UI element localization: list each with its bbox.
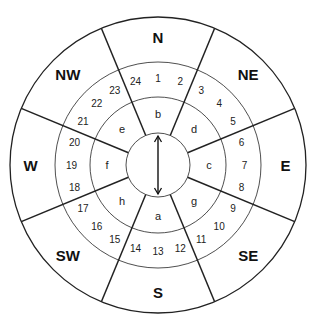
position-10: 10 [214,221,226,232]
sector-label-se: SE [238,247,258,264]
sector-label-sw: SW [56,247,81,264]
position-7: 7 [242,160,248,171]
position-6: 6 [239,137,245,148]
position-3: 3 [198,85,204,96]
position-1: 1 [155,73,161,84]
segment-e: e [119,123,125,135]
position-19: 19 [66,160,78,171]
position-4: 4 [216,98,222,109]
position-5: 5 [230,116,236,127]
segment-a: a [155,210,162,222]
position-15: 15 [109,234,121,245]
position-23: 23 [109,85,121,96]
position-2: 2 [178,76,184,87]
position-12: 12 [175,243,187,254]
position-24: 24 [130,76,142,87]
compass-ring-diagram: NNEESESSWWNW 123456789101112131415161718… [0,0,315,323]
sector-label-ne: NE [238,66,259,83]
segment-g: g [191,195,197,207]
sector-label-s: S [153,284,163,301]
position-17: 17 [78,203,90,214]
segment-c: c [206,159,212,171]
segment-f: f [105,159,109,171]
position-16: 16 [91,221,103,232]
segment-d: d [191,123,197,135]
position-20: 20 [69,137,81,148]
sector-label-n: N [153,29,164,46]
segment-b: b [155,108,161,120]
sector-label-nw: NW [55,66,81,83]
position-22: 22 [91,98,103,109]
numbered-position-labels: 123456789101112131415161718192021222324 [66,73,248,257]
position-8: 8 [239,182,245,193]
position-13: 13 [152,246,164,257]
position-9: 9 [230,203,236,214]
position-21: 21 [78,116,90,127]
compass-sector-labels: NNEESESSWWNW [23,29,290,301]
position-11: 11 [196,234,207,245]
letter-segment-labels: bdcgahfe [105,108,212,222]
sector-label-w: W [23,157,38,174]
double-arrow-icon [155,136,162,194]
sector-label-e: E [280,157,290,174]
segment-h: h [119,195,125,207]
position-18: 18 [69,182,81,193]
position-14: 14 [130,243,142,254]
